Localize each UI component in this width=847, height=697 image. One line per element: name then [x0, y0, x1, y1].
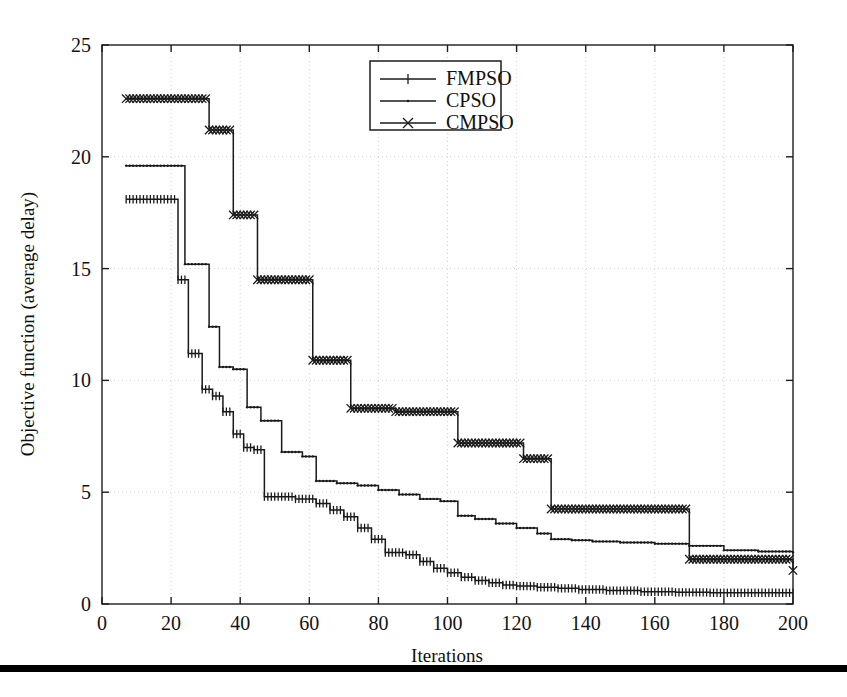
dot-marker: [616, 540, 618, 542]
dot-marker: [699, 545, 701, 547]
y-tick-label: 20: [71, 146, 91, 168]
dot-marker: [623, 541, 625, 543]
dot-marker: [550, 538, 552, 540]
dot-marker: [647, 541, 649, 543]
dot-marker: [242, 368, 244, 370]
dot-marker: [436, 498, 438, 500]
x-tick-label: 0: [97, 612, 107, 634]
dot-marker: [305, 455, 307, 457]
dot-marker: [260, 419, 262, 421]
dot-marker: [204, 263, 206, 265]
dot-marker: [609, 540, 611, 542]
dot-marker: [495, 522, 497, 524]
dot-marker: [128, 165, 130, 167]
dot-marker: [194, 263, 196, 265]
dot-marker: [318, 480, 320, 482]
dot-marker: [439, 500, 441, 502]
dot-marker: [712, 545, 714, 547]
page-bottom-rule: [0, 665, 847, 672]
dot-marker: [139, 165, 141, 167]
dot-marker: [384, 489, 386, 491]
dot-marker: [229, 366, 231, 368]
dot-marker: [674, 542, 676, 544]
dot-marker: [184, 263, 186, 265]
dot-marker: [502, 522, 504, 524]
dot-marker: [298, 451, 300, 453]
dot-marker: [356, 484, 358, 486]
dot-marker: [401, 493, 403, 495]
dot-marker: [460, 514, 462, 516]
dot-marker: [702, 545, 704, 547]
dot-marker: [474, 518, 476, 520]
legend-label-cpso[interactable]: CPSO: [446, 89, 496, 111]
dot-marker: [477, 518, 479, 520]
dot-marker: [160, 165, 162, 167]
dot-marker: [263, 419, 265, 421]
dot-marker: [287, 451, 289, 453]
dot-marker: [246, 406, 248, 408]
dot-marker: [125, 165, 127, 167]
dot-marker: [505, 522, 507, 524]
dot-marker: [716, 545, 718, 547]
dot-marker: [336, 482, 338, 484]
dot-marker: [754, 549, 756, 551]
dot-marker: [277, 419, 279, 421]
dot-marker: [408, 493, 410, 495]
dot-marker: [512, 522, 514, 524]
dot-marker: [567, 538, 569, 540]
dot-marker: [705, 545, 707, 547]
dot-marker: [585, 539, 587, 541]
dot-marker: [256, 406, 258, 408]
dot-marker: [785, 550, 787, 552]
dot-marker: [191, 263, 193, 265]
dot-marker: [743, 549, 745, 551]
dot-marker: [294, 451, 296, 453]
dot-marker: [329, 480, 331, 482]
dot-marker: [177, 165, 179, 167]
dot-marker: [733, 549, 735, 551]
dot-marker: [405, 493, 407, 495]
dot-marker: [173, 165, 175, 167]
dot-marker: [522, 527, 524, 529]
dot-marker: [781, 550, 783, 552]
dot-marker: [481, 518, 483, 520]
x-tick-label: 160: [640, 612, 670, 634]
dot-marker: [671, 542, 673, 544]
dot-marker: [661, 542, 663, 544]
dot-marker: [443, 500, 445, 502]
dot-marker: [695, 545, 697, 547]
dot-marker: [267, 419, 269, 421]
dot-marker: [412, 493, 414, 495]
dot-marker: [612, 540, 614, 542]
dot-marker: [377, 489, 379, 491]
dot-marker: [626, 541, 628, 543]
dot-marker: [453, 500, 455, 502]
dot-marker: [564, 538, 566, 540]
dot-marker: [778, 550, 780, 552]
chart-legend[interactable]: FMPSOCPSOCMPSO: [370, 61, 514, 133]
dot-marker: [249, 406, 251, 408]
dot-marker: [498, 522, 500, 524]
dot-marker: [170, 165, 172, 167]
dot-marker: [491, 518, 493, 520]
dot-marker: [657, 542, 659, 544]
dot-marker: [339, 482, 341, 484]
dot-marker: [391, 489, 393, 491]
x-tick-label: 120: [502, 612, 532, 634]
dot-marker: [232, 368, 234, 370]
dot-marker: [508, 522, 510, 524]
dot-marker: [394, 489, 396, 491]
legend-label-fmpso[interactable]: FMPSO: [446, 67, 512, 89]
dot-marker: [640, 541, 642, 543]
dot-marker: [198, 263, 200, 265]
dot-marker: [225, 366, 227, 368]
dot-marker: [526, 527, 528, 529]
dot-marker: [222, 366, 224, 368]
legend-label-cmpso[interactable]: CMPSO: [446, 111, 514, 133]
dot-marker: [730, 549, 732, 551]
dot-marker: [381, 489, 383, 491]
dot-marker: [636, 541, 638, 543]
dot-marker: [750, 549, 752, 551]
dot-marker: [363, 484, 365, 486]
dot-marker: [149, 165, 151, 167]
